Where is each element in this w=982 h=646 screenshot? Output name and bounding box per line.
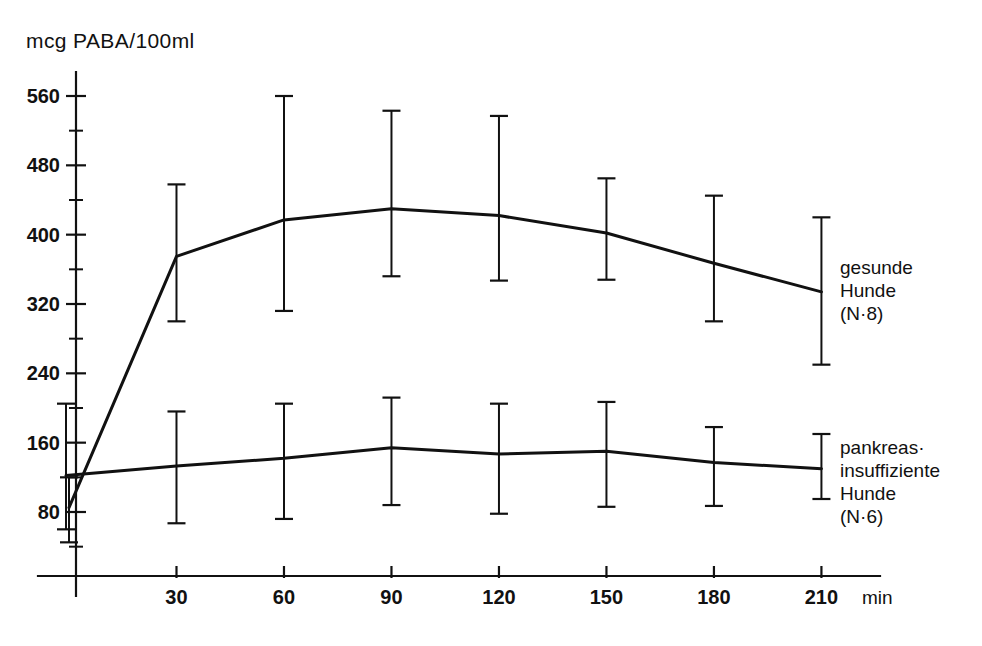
x-tick-label-60: 60 — [273, 586, 295, 608]
chart-figure: mcg PABA/100ml 56048040032024016080 3060… — [0, 0, 982, 646]
x-axis-unit-label: min — [862, 587, 893, 608]
y-tick-label-320: 320 — [27, 293, 60, 315]
x-tick-label-30: 30 — [165, 586, 187, 608]
y-tick-label-160: 160 — [27, 432, 60, 454]
y-axis-title: mcg PABA/100ml — [26, 29, 195, 52]
legend-insuff-line1: pankreas· — [840, 437, 925, 458]
x-tick-label-150: 150 — [590, 586, 623, 608]
legend-gesunde-hunde: gesunde Hunde (N·8) — [840, 257, 913, 324]
x-tick-label-90: 90 — [380, 586, 402, 608]
legend-gesunde-line1: gesunde — [840, 257, 913, 278]
y-tick-label-560: 560 — [27, 85, 60, 107]
legend-insuff-line3: Hunde — [840, 483, 896, 504]
legend-gesunde-line2: Hunde — [840, 280, 896, 301]
y-tick-label-400: 400 — [27, 224, 60, 246]
paba-line-chart: mcg PABA/100ml 56048040032024016080 3060… — [0, 0, 982, 646]
series-line-pankreasinsuffiziente-hunde — [66, 448, 821, 476]
y-tick-label-480: 480 — [27, 154, 60, 176]
y-tick-label-80: 80 — [38, 501, 60, 523]
y-tick-label-240: 240 — [27, 362, 60, 384]
x-tick-label-120: 120 — [482, 586, 515, 608]
legend-insuff-line2: insuffiziente — [840, 460, 940, 481]
x-axis-tick-labels: 306090120150180210 — [165, 586, 838, 608]
legend-pankreasinsuffiziente-hunde: pankreas· insuffiziente Hunde (N·6) — [840, 437, 940, 527]
x-tick-label-180: 180 — [697, 586, 730, 608]
x-tick-label-210: 210 — [805, 586, 838, 608]
legend-insuff-line4: (N·6) — [840, 506, 883, 527]
y-axis-tick-labels: 56048040032024016080 — [27, 85, 60, 523]
legend-gesunde-line3: (N·8) — [840, 303, 883, 324]
